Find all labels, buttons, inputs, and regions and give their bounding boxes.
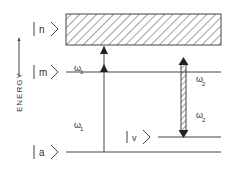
svg-text:2: 2 bbox=[202, 81, 206, 87]
energy-axis-label: ENERGY bbox=[15, 72, 24, 112]
energy-axis-arrow bbox=[18, 37, 21, 76]
energy-level-diagram: ENERGY n m a v ω 1 ω 1 ω 2 bbox=[0, 0, 231, 169]
svg-text:1: 1 bbox=[80, 126, 84, 132]
svg-text:2: 2 bbox=[202, 117, 206, 123]
omega2-upper-label: ω 2 bbox=[196, 74, 206, 87]
ket-v: v bbox=[127, 130, 150, 144]
ket-n-label: n bbox=[39, 24, 45, 35]
ket-n: n bbox=[34, 22, 58, 36]
ket-m: m bbox=[34, 65, 58, 79]
level-n-band bbox=[66, 14, 221, 45]
omega1-upper-label: ω 1 bbox=[74, 63, 84, 75]
ket-v-label: v bbox=[132, 133, 137, 143]
omega2-lower-label: ω 2 bbox=[196, 110, 206, 123]
ket-a-label: a bbox=[39, 147, 45, 158]
omega1-lower-label: ω 1 bbox=[74, 120, 84, 132]
omega2-double-arrow bbox=[179, 57, 189, 138]
ket-a: a bbox=[34, 145, 58, 159]
omega1-arrow bbox=[100, 46, 108, 152]
ket-m-label: m bbox=[39, 67, 47, 78]
